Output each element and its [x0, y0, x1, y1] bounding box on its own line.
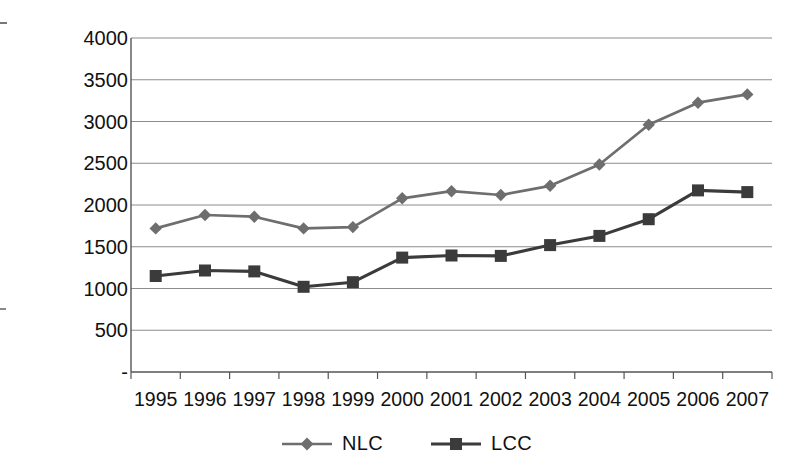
data-point-marker-nlc: [741, 88, 753, 100]
x-axis-tick-label: 2007: [726, 388, 769, 411]
data-point-marker-nlc: [495, 189, 507, 201]
x-axis-tick-label: 2005: [627, 388, 670, 411]
legend-label-nlc: NLC: [342, 432, 383, 455]
data-point-marker-lcc: [495, 250, 507, 262]
data-point-marker-lcc: [347, 276, 359, 288]
x-axis-tick-label: 2003: [528, 388, 571, 411]
x-axis-tick-label: 1997: [233, 388, 276, 411]
legend-marker-square-icon: [429, 434, 483, 454]
data-point-marker-nlc: [297, 222, 309, 234]
x-axis-tick-label: 1999: [331, 388, 374, 411]
x-axis-tick-label: 2002: [479, 388, 522, 411]
data-point-marker-nlc: [396, 192, 408, 204]
chart-legend: NLC LCC: [0, 432, 812, 455]
x-axis-tick-label: 1996: [183, 388, 226, 411]
x-axis-tick-label: 2006: [676, 388, 719, 411]
legend-marker-diamond-icon: [280, 434, 334, 454]
data-point-marker-lcc: [593, 230, 605, 242]
data-point-marker-lcc: [643, 213, 655, 225]
data-point-marker-nlc: [445, 185, 457, 197]
data-point-marker-lcc: [199, 265, 211, 277]
legend-item-lcc[interactable]: LCC: [429, 432, 532, 455]
data-point-marker-lcc: [396, 252, 408, 264]
x-axis-tick-label: 1995: [134, 388, 177, 411]
data-point-marker-lcc: [741, 186, 753, 198]
data-point-marker-nlc: [199, 209, 211, 221]
x-axis-tick-label: 2000: [380, 388, 423, 411]
data-point-marker-lcc: [248, 265, 260, 277]
chart-container: USD Per Block Hour -50010001500200025003…: [0, 0, 812, 476]
data-point-marker-nlc: [150, 222, 162, 234]
x-axis-tick-label: 1998: [282, 388, 325, 411]
legend-item-nlc[interactable]: NLC: [280, 432, 383, 455]
data-point-marker-lcc: [692, 184, 704, 196]
data-point-marker-nlc: [544, 180, 556, 192]
legend-label-lcc: LCC: [491, 432, 532, 455]
x-axis-tick-label: 2004: [578, 388, 621, 411]
data-point-marker-lcc: [150, 270, 162, 282]
data-point-marker-lcc: [544, 239, 556, 251]
data-point-marker-nlc: [347, 221, 359, 233]
data-point-marker-nlc: [248, 211, 260, 223]
data-point-marker-nlc: [692, 97, 704, 109]
data-point-marker-lcc: [446, 250, 458, 262]
series-line-nlc: [156, 94, 748, 228]
data-point-marker-lcc: [298, 281, 310, 293]
x-axis-tick-label: 2001: [430, 388, 473, 411]
